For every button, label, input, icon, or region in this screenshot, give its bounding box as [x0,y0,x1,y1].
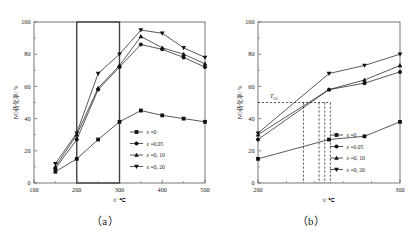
legend-label-1: x =0.05 [346,144,364,150]
data-point-s3-6 [181,46,186,50]
data-point-s2-4 [139,34,144,38]
data-point-s0-2 [96,138,100,142]
data-point-s2-7 [203,61,208,65]
data-point-s1-1 [75,138,79,142]
y-tick-label: 80 [248,50,254,57]
data-point-s0-1 [327,138,331,142]
legend-label-2: x =0, 10 [346,155,365,161]
legend-label-2: x =0, 10 [146,152,165,158]
data-point-s0-4 [139,109,143,113]
panel-a-caption: （a） [0,212,210,228]
y-axis-label: NO转化率/ % [236,85,244,119]
data-point-s1-6 [182,55,186,59]
x-axis-label: t/ ℃ [323,196,335,203]
y-tick-label: 60 [24,83,30,90]
figure-container: 020406080100100200300400500t/ ℃NO转化率/ %x… [0,0,412,238]
panel-b-plot: 020406080100200300t/ ℃NO转化率/ %T50x =0x =… [210,0,412,212]
y-tick-label: 100 [245,18,254,25]
legend-label-1: x =0.05 [146,141,164,147]
panel-b: 020406080100200300t/ ℃NO转化率/ %T50x =0x =… [210,0,412,238]
panel-a-plot: 020406080100100200300400500t/ ℃NO转化率/ %x… [0,0,210,212]
x-tick-label: 300 [115,186,124,193]
y-tick-label: 20 [24,147,30,154]
legend-label-3: x =0, 20 [346,167,365,173]
data-point-s1-3 [398,70,402,74]
data-point-s3-5 [160,32,165,36]
legend-marker-1 [335,145,339,149]
legend-marker-0 [135,130,139,134]
x-tick-label: 500 [200,186,209,193]
data-point-s0-3 [118,120,122,124]
legend-marker-1 [135,142,139,146]
panel-b-caption: （b） [210,212,412,228]
data-point-s1-2 [363,81,367,85]
x-tick-label: 100 [29,186,38,193]
data-point-s1-4 [139,43,143,47]
data-point-s0-7 [203,120,207,124]
data-point-s2-3 [398,63,403,67]
x-tick-label: 200 [253,186,262,193]
panel-a: 020406080100100200300400500t/ ℃NO转化率/ %x… [0,0,210,238]
data-point-s1-7 [203,65,207,69]
data-point-s3-7 [203,56,208,60]
x-tick-label: 200 [72,186,81,193]
x-tick-label: 400 [158,186,167,193]
data-point-s2-5 [160,45,165,49]
legend-label-0: x =0 [346,132,357,138]
legend-marker-0 [335,133,339,137]
data-point-s1-0 [256,138,260,142]
y-tick-label: 40 [24,115,30,122]
data-point-s3-2 [96,72,101,76]
data-point-s0-1 [75,157,79,161]
legend-label-3: x =0, 20 [146,164,165,170]
legend-label-0: x =0 [146,129,157,135]
data-point-s0-5 [160,113,164,117]
series-line-1 [55,45,205,169]
highlight-region-box [77,22,120,183]
y-tick-label: 40 [248,115,254,122]
t50-annotation-label: T50 [270,93,278,101]
y-tick-label: 20 [248,147,254,154]
series-line-1 [258,72,400,140]
y-tick-label: 80 [24,50,30,57]
data-point-s0-3 [398,120,402,124]
data-point-s0-2 [363,134,367,138]
x-tick-label: 300 [395,186,404,193]
y-tick-label: 60 [248,83,254,90]
data-point-s0-0 [256,157,260,161]
x-axis-label: t/ ℃ [113,196,125,203]
data-point-s0-6 [182,117,186,121]
y-axis-label: NO转化率/ % [12,85,20,119]
y-tick-label: 100 [21,18,30,25]
